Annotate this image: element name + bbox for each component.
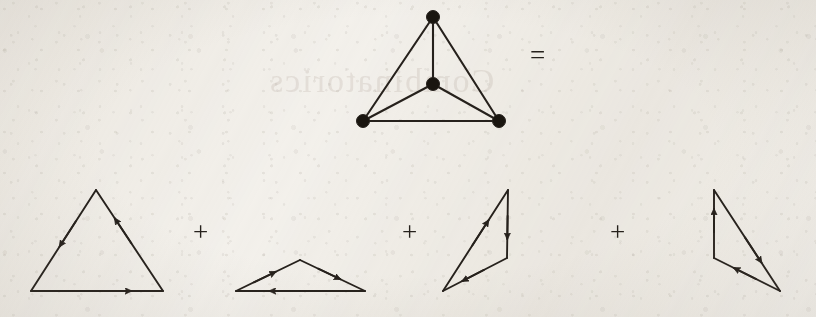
vertex-bottom-left [357, 115, 370, 128]
vertex-bottom-right [493, 115, 506, 128]
edge-center-bottom-left [363, 84, 433, 121]
directed-triangle-4-arrow-down-right [745, 238, 761, 263]
directed-triangle-3-arrow-up-right [472, 220, 488, 245]
directed-triangle-2-arrow-down-right [318, 269, 340, 280]
directed-triangle-1-arrow-down-left [60, 221, 76, 246]
figure-page: Combinatorics = + + + [0, 0, 816, 317]
equation-figure [0, 0, 816, 317]
plus-sign-2: + [402, 219, 417, 246]
equals-sign: = [530, 42, 545, 69]
directed-triangle-2-arrow-up-right [254, 272, 276, 283]
edge-top-bottom-right [433, 17, 499, 121]
directed-triangle-1-arrow-up-left [115, 218, 132, 243]
diamond-graph [357, 11, 506, 128]
plus-sign-1: + [193, 219, 208, 246]
directed-triangle-1 [31, 190, 163, 291]
directed-triangle-4 [714, 190, 780, 291]
directed-triangle-4-arrow-up-left [734, 268, 756, 279]
directed-triangle-3 [443, 190, 508, 291]
edge-top-bottom-left [363, 17, 433, 121]
directed-triangle-3-arrow-down-left [462, 270, 484, 281]
diamond-graph-vertices [357, 11, 506, 128]
plus-sign-3: + [610, 219, 625, 246]
edge-center-bottom-right [433, 84, 499, 121]
diamond-graph-edges [363, 17, 499, 121]
directed-triangle-2 [236, 260, 365, 291]
vertex-top [427, 11, 440, 24]
vertex-center [427, 78, 440, 91]
